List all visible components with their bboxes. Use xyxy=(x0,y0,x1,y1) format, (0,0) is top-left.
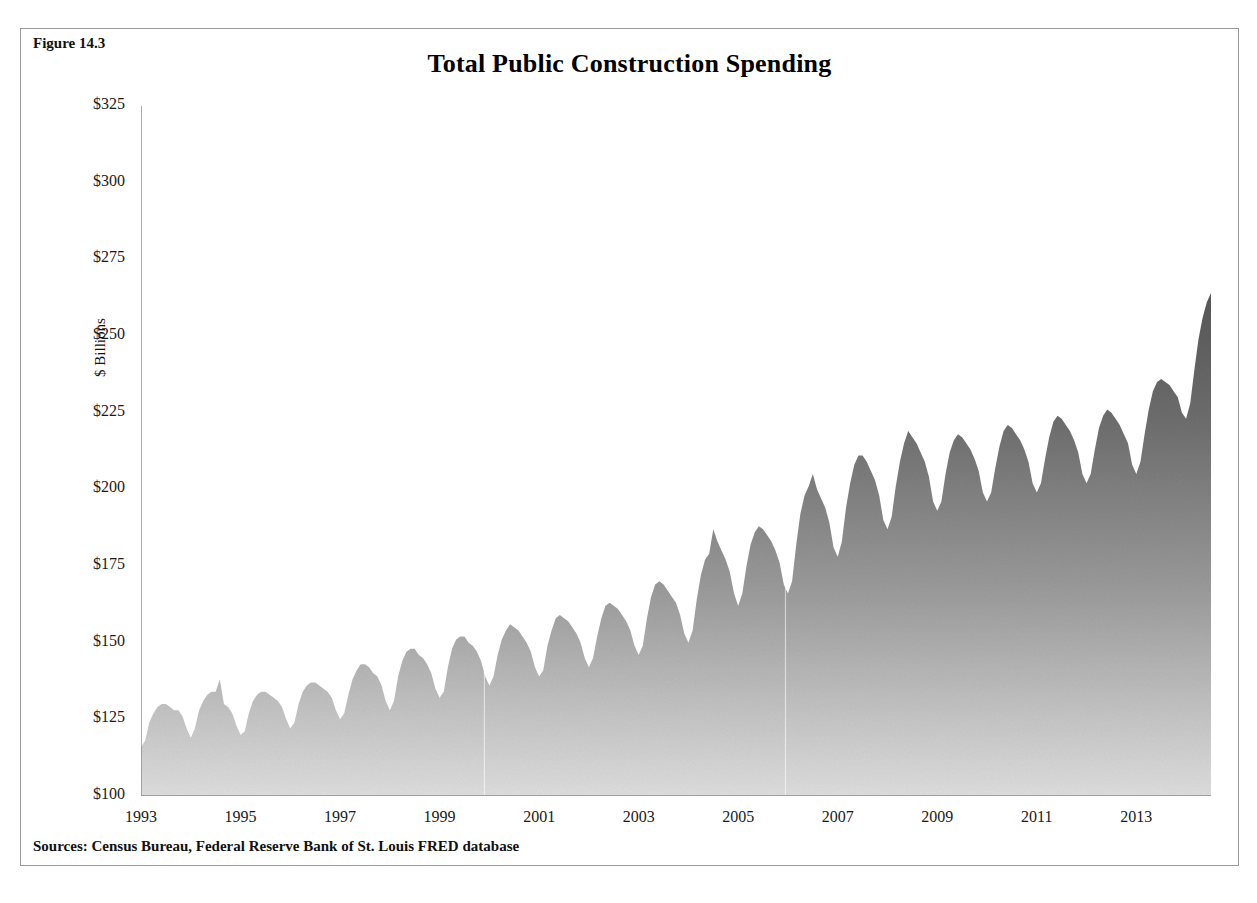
x-tick-label: 2009 xyxy=(902,808,972,826)
x-tick-label: 1995 xyxy=(206,808,276,826)
x-tick-label: 1999 xyxy=(405,808,475,826)
x-tick-label: 1993 xyxy=(106,808,176,826)
data-area xyxy=(141,109,1211,796)
chart-title: Total Public Construction Spending xyxy=(21,49,1238,79)
y-tick-label: $275 xyxy=(55,248,125,266)
y-tick-label: $125 xyxy=(55,708,125,726)
y-tick-label: $100 xyxy=(55,785,125,803)
x-tick-label: 2011 xyxy=(1002,808,1072,826)
y-tick-label: $300 xyxy=(55,172,125,190)
x-tick-label: 2007 xyxy=(803,808,873,826)
source-note: Sources: Census Bureau, Federal Reserve … xyxy=(33,838,519,855)
y-tick-label: $200 xyxy=(55,478,125,496)
y-tick-label: $325 xyxy=(55,95,125,113)
x-tick-label: 2013 xyxy=(1101,808,1171,826)
area-chart-svg xyxy=(141,106,1211,796)
y-tick-label: $250 xyxy=(55,325,125,343)
y-tick-label: $175 xyxy=(55,555,125,573)
x-tick-label: 2003 xyxy=(604,808,674,826)
y-tick-label: $150 xyxy=(55,632,125,650)
figure-frame: Figure 14.3 Total Public Construction Sp… xyxy=(20,28,1239,866)
plot-area xyxy=(141,106,1211,796)
x-tick-label: 2005 xyxy=(703,808,773,826)
x-tick-label: 1997 xyxy=(305,808,375,826)
y-tick-label: $225 xyxy=(55,402,125,420)
area-series-path xyxy=(141,109,1211,796)
x-tick-label: 2001 xyxy=(504,808,574,826)
